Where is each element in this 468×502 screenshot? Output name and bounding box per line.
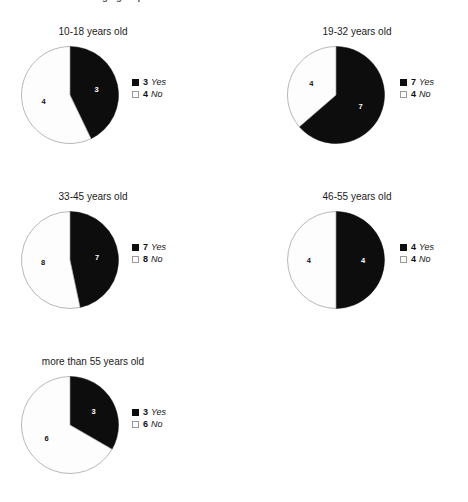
- legend-count: 4: [411, 242, 416, 252]
- pie-slice-value: 3: [91, 407, 95, 416]
- pie-graphic: 34: [20, 45, 120, 145]
- pie-chart-card: more than 55 years old363Yes6No: [0, 348, 234, 502]
- legend-label: Yes: [419, 77, 434, 87]
- legend-count: 4: [411, 254, 416, 264]
- legend-item: 8No: [132, 253, 166, 265]
- legend-count: 3: [143, 407, 148, 417]
- legend-label: Yes: [151, 77, 166, 87]
- pie-graphic: 78: [20, 210, 120, 310]
- pie-graphic: 44: [286, 210, 386, 310]
- legend-label: No: [419, 89, 431, 99]
- chart-legend: 7Yes8No: [132, 241, 166, 265]
- chart-title: 10-18 years old: [0, 26, 186, 37]
- chart-title: 19-32 years old: [264, 26, 450, 37]
- pie-slice-value: 6: [44, 434, 48, 443]
- pie-chart-card: 19-32 years old747Yes4No: [234, 18, 468, 183]
- pie-slice-value: 7: [95, 253, 99, 262]
- legend-item: 6No: [132, 418, 166, 430]
- legend-label: Yes: [419, 242, 434, 252]
- legend-swatch-yes-icon: [132, 244, 139, 251]
- legend-count: 4: [143, 89, 148, 99]
- legend-item: 3Yes: [132, 406, 166, 418]
- chart-legend: 3Yes4No: [132, 76, 166, 100]
- pie-slice-value: 3: [94, 85, 98, 94]
- legend-label: No: [151, 254, 163, 264]
- legend-swatch-no-icon: [132, 91, 139, 98]
- legend-count: 4: [411, 89, 416, 99]
- pie-chart-card: 10-18 years old343Yes4No: [0, 18, 234, 183]
- pie-graphic: 74: [286, 45, 386, 145]
- legend-swatch-yes-icon: [132, 79, 139, 86]
- legend-swatch-no-icon: [132, 256, 139, 263]
- legend-swatch-no-icon: [400, 256, 407, 263]
- legend-swatch-yes-icon: [400, 244, 407, 251]
- legend-swatch-yes-icon: [132, 409, 139, 416]
- legend-item: 4No: [132, 88, 166, 100]
- legend-label: No: [151, 89, 163, 99]
- legend-label: Yes: [151, 407, 166, 417]
- chart-title: 33-45 years old: [0, 191, 186, 202]
- legend-item: 3Yes: [132, 76, 166, 88]
- chart-legend: 3Yes6No: [132, 406, 166, 430]
- chart-title: 46-55 years old: [264, 191, 450, 202]
- legend-count: 8: [143, 254, 148, 264]
- legend-swatch-no-icon: [400, 91, 407, 98]
- chart-title: more than 55 years old: [0, 356, 186, 367]
- legend-swatch-yes-icon: [400, 79, 407, 86]
- page-title: Results within age groups: [28, 0, 448, 3]
- pie-chart-card: 33-45 years old787Yes8No: [0, 183, 234, 348]
- legend-label: No: [151, 419, 163, 429]
- legend-item: 7Yes: [400, 76, 434, 88]
- legend-count: 6: [143, 419, 148, 429]
- pie-slice-value: 8: [41, 258, 45, 267]
- pie-chart-grid: 10-18 years old343Yes4No19-32 years old7…: [0, 18, 468, 502]
- legend-item: 4Yes: [400, 241, 434, 253]
- legend-swatch-no-icon: [132, 421, 139, 428]
- legend-item: 4No: [400, 253, 434, 265]
- pie-chart-card: 46-55 years old444Yes4No: [234, 183, 468, 348]
- legend-label: No: [419, 254, 431, 264]
- pie-graphic: 36: [20, 375, 120, 475]
- legend-label: Yes: [151, 242, 166, 252]
- pie-slice-value: 7: [359, 102, 363, 111]
- chart-legend: 7Yes4No: [400, 76, 434, 100]
- pie-slice-no: [288, 212, 336, 309]
- legend-count: 7: [411, 77, 416, 87]
- legend-count: 3: [143, 77, 148, 87]
- legend-item: 7Yes: [132, 241, 166, 253]
- legend-item: 4No: [400, 88, 434, 100]
- legend-count: 7: [143, 242, 148, 252]
- chart-legend: 4Yes4No: [400, 241, 434, 265]
